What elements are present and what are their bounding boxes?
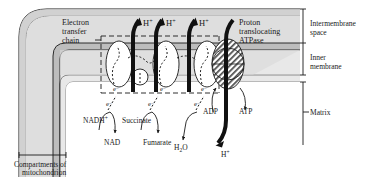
intermembrane-space-label-line1: Intermembrane: [310, 19, 356, 28]
atpase-label-line1: Proton: [239, 18, 260, 27]
complex-I: [106, 41, 132, 87]
atp-label: ATP: [239, 107, 252, 116]
succinate-label: Succinate: [122, 116, 152, 125]
atpase-label-line2: translocating: [239, 27, 280, 36]
right-region-brackets: [300, 9, 309, 145]
nad-label: NAD: [104, 138, 121, 147]
matrix-region: [66, 82, 300, 177]
etc-label-line1: Electron: [62, 18, 89, 27]
compartments-label-line2: mitochondrion: [22, 168, 66, 177]
atpase-label-line3: ATPase: [239, 36, 264, 45]
etc-label-line2: transfer: [62, 27, 87, 36]
intermembrane-space-label-line2: space: [310, 28, 327, 37]
figure-canvas: H+ H+ H+ H+ ADP ATP e– e– e– e– e– e– NA…: [0, 0, 367, 177]
nadh-label: NADH+: [83, 115, 108, 125]
etc-label-line3: chain: [62, 36, 79, 45]
adp-label: ADP: [203, 107, 218, 116]
mitochondrion-diagram: H+ H+ H+ H+ ADP ATP e– e– e– e– e– e– NA…: [0, 0, 367, 177]
inner-membrane-label-line1: Inner: [310, 53, 326, 62]
inner-membrane-label-line2: membrane: [310, 62, 342, 71]
fumarate-label: Fumarate: [143, 138, 172, 147]
matrix-label: Matrix: [310, 108, 331, 117]
